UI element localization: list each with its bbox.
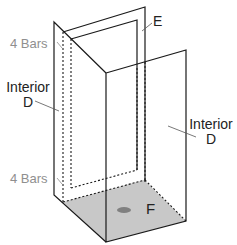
label-interior-right-line1: Interior: [186, 117, 236, 132]
leader-e: [142, 23, 152, 31]
label-interior-right: Interior D: [186, 117, 236, 147]
label-f: F: [146, 202, 155, 216]
floor-spot: [117, 207, 131, 213]
leader-bars-bottom: [57, 178, 62, 184]
leader-bars-top: [57, 42, 62, 48]
label-interior-left-line2: D: [4, 95, 52, 110]
label-interior-left-line1: Interior: [4, 80, 52, 95]
label-bars-bottom: 4 Bars: [10, 172, 48, 186]
label-bars-top: 4 Bars: [10, 37, 48, 51]
back-panel-outer-frame: [63, 7, 145, 182]
label-interior-right-line2: D: [186, 132, 236, 147]
back-panel-inner-frame: [71, 20, 137, 170]
label-e: E: [153, 14, 162, 28]
label-interior-left: Interior D: [4, 80, 52, 110]
